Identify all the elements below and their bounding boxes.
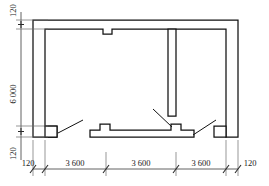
dim-label-bay-2: 3 600 <box>131 158 150 168</box>
dim-label-bay-1: 3 600 <box>65 158 84 168</box>
bottom-left-wall-stub <box>45 126 57 137</box>
leader-line-bottom-right <box>193 120 216 135</box>
leader-line-bottom-left <box>58 120 83 133</box>
dim-label-top-wall-thickness: 120 <box>8 4 18 17</box>
floor-plan-svg: 120 6 000 120 120 3 600 3 600 <box>0 0 269 186</box>
horizontal-dimension-chain: 120 3 600 3 600 3 600 120 <box>22 140 257 176</box>
dim-label-right-wall-thickness: 120 <box>244 158 257 168</box>
exterior-wall-outline <box>33 20 238 137</box>
wall-geometry <box>33 20 238 137</box>
dim-label-bay-3: 3 600 <box>191 158 210 168</box>
vertical-tick-top <box>18 21 24 28</box>
vertical-tick-bottom <box>18 128 24 135</box>
dim-label-interior-height: 6 000 <box>8 84 18 103</box>
dim-label-left-wall-thickness: 120 <box>22 158 35 168</box>
dim-label-bottom-wall-thickness: 120 <box>8 147 18 160</box>
bottom-wall-segment <box>90 124 194 137</box>
floor-plan-drawing: 120 6 000 120 120 3 600 3 600 <box>0 0 269 186</box>
interior-partition-wall <box>168 29 176 116</box>
bottom-right-wall-stub <box>214 126 226 137</box>
